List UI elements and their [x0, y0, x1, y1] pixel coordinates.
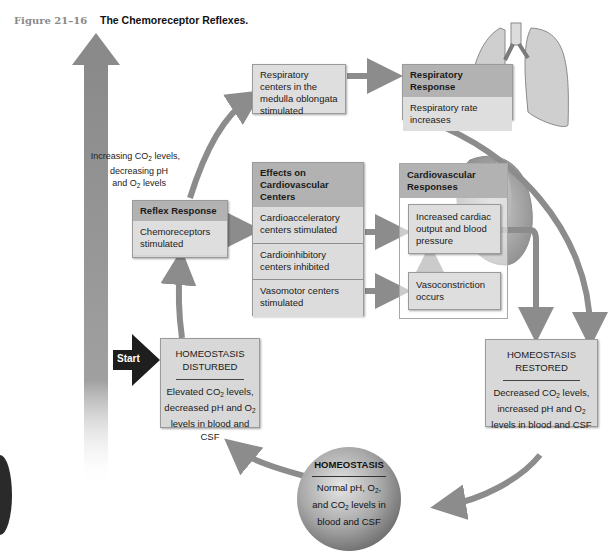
reflex-response-body: Chemoreceptors stimulated: [133, 221, 227, 255]
cardiovascular-centers-header: Effects on Cardiovascular Centers: [253, 163, 363, 207]
cardiovascular-responses-panel: Cardiovascular Responses Increased cardi…: [399, 163, 508, 319]
homeostasis-title: HOMEOSTASIS: [300, 458, 398, 472]
divider: [176, 379, 245, 380]
start-label: Start: [117, 353, 140, 364]
homeostasis-restored-box: HOMEOSTASISRESTORED Decreased CO2 levels…: [485, 339, 598, 427]
respiratory-response-header: Respiratory Response: [403, 65, 512, 97]
homeostasis-circle-text: HOMEOSTASIS Normal pH, O2, and CO2 level…: [300, 458, 398, 529]
vasomotor-row: Vasomotor centers stimulated: [253, 279, 363, 317]
figure-caption: Figure 21–16 The Chemoreceptor Reflexes.: [14, 14, 248, 26]
increased-cardiac-output-box: Increased cardiac output and blood press…: [408, 204, 501, 254]
reflex-response-box: Reflex Response Chemoreceptors stimulate…: [132, 200, 228, 258]
increasing-co2-arrow: [72, 33, 120, 485]
respiratory-response-body: Respiratory rate increases: [403, 97, 512, 131]
respiratory-response-box: Respiratory Response Respiratory rate in…: [402, 64, 513, 120]
vasoconstriction-box: Vasoconstriction occurs: [408, 272, 501, 310]
increasing-co2-label: Increasing CO2 levels, decreasing pH and…: [40, 150, 180, 192]
figure-title: The Chemoreceptor Reflexes.: [100, 14, 248, 26]
page-tab-marker: [0, 455, 12, 535]
cardiovascular-responses-header: Cardiovascular Responses: [400, 164, 507, 198]
divider: [312, 476, 386, 477]
cardiovascular-centers-box: Effects on Cardiovascular Centers Cardio…: [252, 162, 364, 316]
cardioacceleratory-row: Cardioacceleratory centers stimulated: [253, 207, 363, 243]
figure-number: Figure 21–16: [14, 15, 87, 26]
respiratory-centers-box: Respiratory centers in the medulla oblon…: [252, 64, 346, 114]
divider: [503, 380, 581, 381]
cardioinhibitory-row: Cardioinhibitory centers inhibited: [253, 243, 363, 279]
homeostasis-disturbed-box: HOMEOSTASISDISTURBED Elevated CO2 levels…: [160, 338, 260, 428]
reflex-response-header: Reflex Response: [133, 201, 227, 221]
